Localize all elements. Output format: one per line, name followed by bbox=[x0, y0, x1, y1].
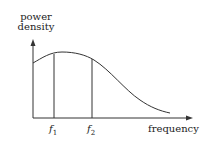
y-axis-arrow-icon bbox=[31, 39, 36, 46]
x-axis-arrow-icon bbox=[186, 116, 193, 121]
f2-subscript: 2 bbox=[91, 129, 95, 137]
f1-label: f1 bbox=[49, 124, 57, 138]
x-axis-label: frequency bbox=[148, 124, 199, 134]
f2-label: f2 bbox=[87, 124, 95, 138]
f1-subscript: 1 bbox=[53, 129, 57, 137]
y-axis-label-line2: density bbox=[16, 22, 56, 32]
y-axis-label: power density bbox=[16, 12, 56, 32]
